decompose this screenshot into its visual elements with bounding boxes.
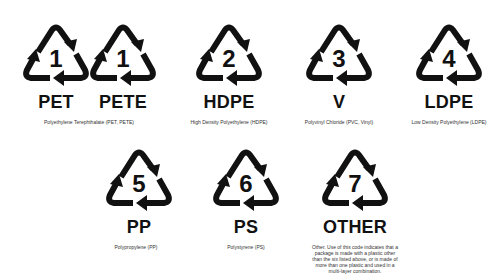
resin-code-label: PET [38,92,74,113]
recycling-triangle-icon: 2 [195,22,263,88]
resin-code-symbol-other: 7 [321,147,389,213]
description-other: Other. Use of this code indicates that a… [310,244,400,274]
resin-code-label: PS [234,217,258,238]
resin-code-symbol-pp: 5 [105,147,173,213]
resin-code-label: HDPE [204,92,255,113]
resin-code-symbol-ps: 6 [212,147,280,213]
description-hdpe: High Density Polyethylene (HDPE) [191,119,268,125]
resin-number: 6 [239,170,252,197]
resin-code-label: PP [127,217,151,238]
resin-number: 7 [348,170,361,197]
description-pet: Polyethylene Terephthalate (PET, PETE) [44,119,134,125]
recycling-triangle-icon: 5 [105,147,173,213]
resin-code-symbol-ldpe: 4 [415,22,483,88]
recycling-triangle-icon: 6 [212,147,280,213]
resin-number: 4 [442,45,456,72]
description-ps: Polystyrene (PS) [227,244,265,250]
resin-code-label: V [333,92,345,113]
resin-number: 3 [332,45,345,72]
recycling-triangle-icon: 4 [415,22,483,88]
resin-code-label: PETE [99,92,147,113]
resin-number: 1 [49,45,62,72]
description-ldpe: Low Density Polyethylene (LDPE) [411,119,486,125]
resin-code-symbol-v: 3 [305,22,373,88]
resin-number: 1 [116,45,129,72]
resin-code-label: OTHER [323,217,387,238]
description-pp: Polypropylene (PP) [114,244,157,250]
recycling-triangle-icon: 1 [22,22,90,88]
resin-code-symbol-pete: 1 [89,22,157,88]
recycling-triangle-icon: 7 [321,147,389,213]
recycling-triangle-icon: 1 [89,22,157,88]
resin-number: 5 [132,170,145,197]
resin-code-symbol-hdpe: 2 [195,22,263,88]
resin-code-label: LDPE [425,92,474,113]
resin-number: 2 [222,45,235,72]
recycling-triangle-icon: 3 [305,22,373,88]
description-pvc: Polyvinyl Chloride (PVC, Vinyl) [305,119,373,125]
resin-code-symbol-pet: 1 [22,22,90,88]
